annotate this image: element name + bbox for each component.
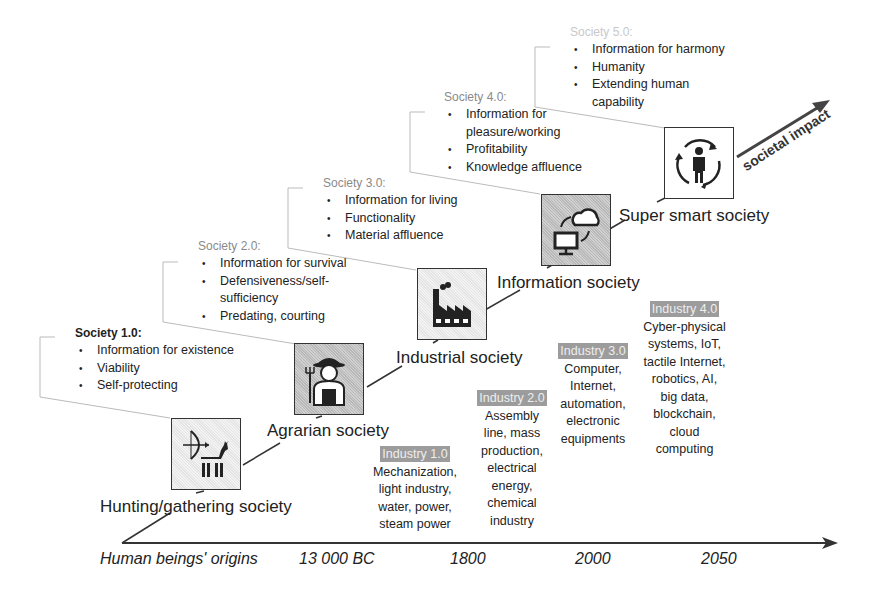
- industry-line: computing: [627, 441, 742, 459]
- industry-line: water, power,: [360, 499, 470, 517]
- society-1-callout: Society 1.0: Information for existence V…: [75, 326, 234, 395]
- industry-line: cloud: [627, 424, 742, 442]
- timeline-label-2050: 2050: [701, 550, 737, 568]
- information-society-iconbox: [541, 194, 611, 266]
- timeline-label-2000: 2000: [575, 550, 611, 568]
- bullet: Humanity: [570, 59, 740, 77]
- computer-cloud-icon: [549, 203, 603, 257]
- hunting-society-iconbox: [171, 418, 241, 490]
- bullet: Defensiveness/self-sufficiency: [198, 273, 378, 308]
- industry-line: light industry,: [360, 481, 470, 499]
- industry-line: blockchain,: [627, 406, 742, 424]
- factory-icon: [427, 279, 477, 329]
- industry-line: tactile Internet,: [627, 354, 742, 372]
- society-title: Society 3.0:: [323, 176, 458, 190]
- society-5-callout: Society 5.0: Information for harmony Hum…: [570, 25, 740, 111]
- super-smart-society-iconbox: [664, 127, 734, 199]
- society-name-industrial: Industrial society: [396, 348, 523, 368]
- bullet: Predating, courting: [198, 308, 378, 326]
- industry-badge: Industry 4.0: [650, 301, 719, 317]
- bullet: Knowledge affluence: [444, 159, 604, 177]
- bullet: Self-protecting: [75, 377, 234, 395]
- industry-badge: Industry 2.0: [477, 390, 546, 406]
- industry-line: industry: [462, 513, 562, 531]
- timeline-label-13000bc: 13 000 BC: [299, 550, 375, 568]
- hunter-bow-deer-icon: [181, 427, 231, 481]
- industry-1-block: Industry 1.0 Mechanization, light indust…: [360, 446, 470, 534]
- agrarian-society-iconbox: [294, 343, 364, 415]
- bullet: Information for survival: [198, 255, 378, 273]
- industry-line: steam power: [360, 516, 470, 534]
- society-title: Society 5.0:: [570, 25, 740, 39]
- industry-line: robotics, AI,: [627, 371, 742, 389]
- bullet: Information for existence: [75, 342, 234, 360]
- society-name-super-smart: Super smart society: [619, 206, 769, 226]
- bullet: Information for pleasure/working: [444, 106, 604, 141]
- industry-line: systems, IoT,: [627, 336, 742, 354]
- industry-line: electrical: [462, 460, 562, 478]
- society-title: Society 1.0:: [75, 326, 234, 340]
- industry-line: Cyber-physical: [627, 319, 742, 337]
- human-cycle-icon: [669, 133, 729, 193]
- industry-badge: Industry 3.0: [558, 343, 627, 359]
- industry-line: chemical: [462, 495, 562, 513]
- industry-line: energy,: [462, 478, 562, 496]
- timeline-label-origins: Human beings' origins: [100, 550, 258, 568]
- timeline-axis: [122, 537, 838, 549]
- timeline-label-1800: 1800: [450, 550, 486, 568]
- society-name-information: Information society: [497, 273, 640, 293]
- bullet: Information for living: [323, 192, 458, 210]
- bullet: Information for harmony: [570, 41, 740, 59]
- society-2-callout: Society 2.0: Information for survival De…: [198, 239, 378, 325]
- industry-line: Mechanization,: [360, 464, 470, 482]
- bullet: Extending human capability: [570, 76, 740, 111]
- industrial-society-iconbox: [417, 268, 487, 340]
- bullet: Material affluence: [323, 227, 458, 245]
- bullet: Functionality: [323, 210, 458, 228]
- bullet: Profitability: [444, 141, 604, 159]
- society-name-hunting: Hunting/gathering society: [100, 497, 292, 517]
- bullet: Viability: [75, 360, 234, 378]
- industry-badge: Industry 1.0: [380, 446, 449, 462]
- industry-4-block: Industry 4.0 Cyber-physical systems, IoT…: [627, 301, 742, 459]
- industry-line: big data,: [627, 389, 742, 407]
- society-name-agrarian: Agrarian society: [267, 421, 389, 441]
- society-3-callout: Society 3.0: Information for living Func…: [323, 176, 458, 245]
- farmer-pitchfork-icon: [304, 351, 354, 407]
